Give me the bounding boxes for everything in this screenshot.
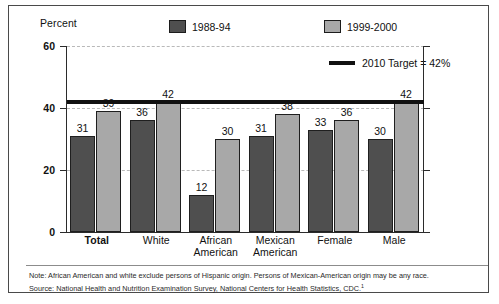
legend-swatch-icon: [324, 20, 341, 33]
legend-swatch-icon: [169, 20, 186, 33]
chart-notes: Note: African American and white exclude…: [29, 271, 484, 294]
x-axis-label: Male: [349, 235, 439, 247]
bar: [130, 120, 155, 232]
bar: [215, 139, 240, 232]
x-axis-label-line: Male: [349, 235, 439, 247]
bar: [275, 114, 300, 232]
bar-value-label: 12: [189, 181, 214, 193]
legend-label: 1999-2000: [347, 21, 397, 33]
chart-legend: 1988-94 1999-2000: [169, 20, 469, 36]
bar-value-label: 42: [394, 88, 419, 100]
bar-value-label: 39: [96, 97, 121, 109]
plot-inner: 6040200313936421230313833363042: [67, 46, 424, 232]
bar: [334, 120, 359, 232]
bar-value-label: 31: [70, 122, 95, 134]
legend-item-1988-94: 1988-94: [169, 20, 231, 33]
bar-value-label: 31: [249, 122, 274, 134]
bar-group: 3642: [127, 46, 187, 232]
source-text: Source: National Health and Nutrition Ex…: [29, 281, 484, 294]
notes-divider: [26, 265, 488, 266]
bar: [308, 130, 333, 232]
bar-group: 3042: [365, 46, 425, 232]
bar-value-label: 36: [130, 106, 155, 118]
source-superscript: 1: [361, 283, 364, 289]
bar-group: 3138: [246, 46, 306, 232]
bar-value-label: 38: [275, 100, 300, 112]
x-axis-label-line: American: [230, 247, 320, 259]
bar: [394, 102, 419, 232]
bar: [249, 136, 274, 232]
y-axis-line: [66, 46, 67, 232]
bar: [368, 139, 393, 232]
legend-label: 1988-94: [192, 21, 231, 33]
bar-value-label: 33: [308, 116, 333, 128]
bar: [70, 136, 95, 232]
bar: [156, 102, 181, 232]
bar-value-label: 30: [215, 125, 240, 137]
plot-area: 6040200313936421230313833363042: [67, 46, 424, 232]
bar-group: 1230: [186, 46, 246, 232]
y-axis-unit-label: Percent: [40, 17, 77, 29]
bar-value-label: 42: [156, 88, 181, 100]
y-axis-tick-right: [423, 232, 430, 233]
bar-value-label: 30: [368, 125, 393, 137]
bar-value-label: 36: [334, 106, 359, 118]
bar: [189, 195, 214, 232]
bar-group: 3139: [67, 46, 127, 232]
note-text: Note: African American and white exclude…: [29, 271, 484, 281]
y-axis-line-right: [423, 46, 424, 232]
bar-group: 3336: [305, 46, 365, 232]
y-axis-tick-label: 60: [29, 40, 55, 52]
source-label: Source: National Health and Nutrition Ex…: [29, 284, 361, 293]
y-axis-tick-label: 20: [29, 164, 55, 176]
y-axis-tick-label: 40: [29, 102, 55, 114]
bar: [96, 111, 121, 232]
figure-frame: Percent 1988-94 1999-2000 2010 Target = …: [8, 5, 489, 293]
legend-item-1999-2000: 1999-2000: [324, 20, 397, 33]
x-axis-labels: TotalWhiteAfricanAmericanMexicanAmerican…: [67, 235, 424, 265]
